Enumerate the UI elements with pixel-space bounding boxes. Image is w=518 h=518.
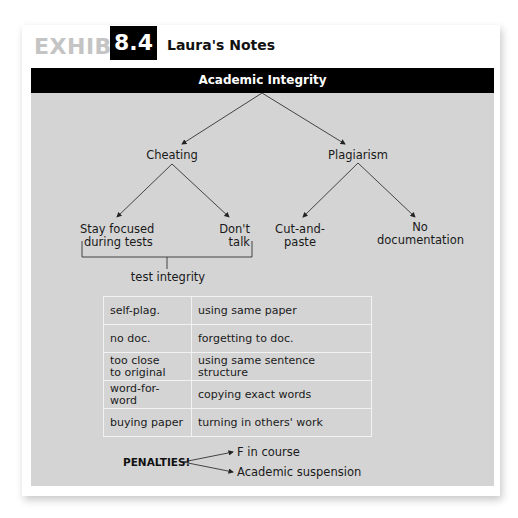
meaning-cell: turning in others' work [192,409,372,437]
node-stay-focused: Stay focused during tests [80,223,160,249]
meaning-cell: using same paper [192,297,372,325]
table-row: buying paper turning in others' work [104,409,372,437]
arrow-penalty-suspension [183,462,233,472]
term-cell: no doc. [104,325,192,353]
arrow-root-to-cheating [182,93,262,144]
notes-table: self-plag. using same paper no doc. forg… [103,296,372,437]
term-cell: buying paper [104,409,192,437]
arrow-penalty-f [183,452,233,462]
arrow-cheating-to-talk [172,164,229,217]
arrow-plagiarism-to-cutpaste [303,163,358,217]
arrow-plagiarism-to-nodoc [358,163,415,217]
term-cell: self-plag. [104,297,192,325]
connector-lines [0,0,518,518]
node-dont-talk: Don't talk [214,223,250,249]
arrow-root-to-plagiarism [262,93,345,144]
arrow-cheating-to-focus [117,164,172,217]
meaning-cell: forgetting to doc. [192,325,372,353]
meaning-cell: using same sentence structure [192,353,372,381]
penalties-label: PENALTIES! [123,456,190,468]
term-cell: too close to original [104,353,192,381]
table-row: word-for-word copying exact words [104,381,372,409]
penalty-f-in-course: F in course [237,445,300,459]
table-row: self-plag. using same paper [104,297,372,325]
term-cell: word-for-word [104,381,192,409]
node-cheating: Cheating [142,149,202,162]
node-no-documentation: No documentation [377,221,463,247]
meaning-cell: copying exact words [192,381,372,409]
table-row: no doc. forgetting to doc. [104,325,372,353]
node-cut-and-paste: Cut-and- paste [272,223,328,249]
penalty-academic-suspension: Academic suspension [237,465,361,479]
table-row: too close to original using same sentenc… [104,353,372,381]
group-label-test-integrity: test integrity [130,271,206,284]
node-plagiarism: Plagiarism [320,149,396,162]
